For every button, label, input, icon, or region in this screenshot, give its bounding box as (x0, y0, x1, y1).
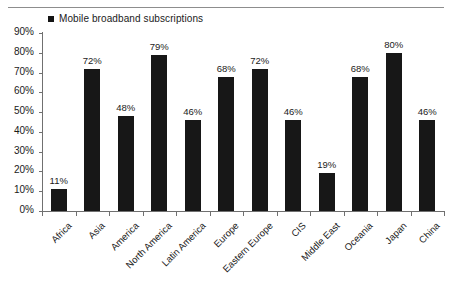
y-axis-tick-mark (39, 112, 42, 113)
x-axis-tick-mark (42, 211, 43, 216)
x-axis-tick-mark (210, 211, 211, 216)
y-axis-tick-label: 70% (14, 66, 34, 77)
bar (151, 55, 167, 211)
bar (51, 189, 67, 211)
y-axis-tick-mark (39, 171, 42, 172)
y-axis-tick-mark (39, 73, 42, 74)
y-axis-tick-label: 10% (14, 184, 34, 195)
bar (118, 116, 134, 211)
bar-value-label: 46% (407, 106, 447, 117)
y-axis-tick-label: 30% (14, 145, 34, 156)
x-axis-tick-mark (310, 211, 311, 216)
y-axis-tick-label: 80% (14, 46, 34, 57)
x-axis-tick-mark (243, 211, 244, 216)
y-axis-tick-mark (39, 152, 42, 153)
bar-value-label: 19% (307, 159, 347, 170)
y-axis-tick-mark (39, 132, 42, 133)
bar-value-label: 46% (173, 106, 213, 117)
y-axis-tick-label: 50% (14, 105, 34, 116)
bar-value-label: 68% (340, 63, 380, 74)
bar-value-label: 79% (139, 41, 179, 52)
bar (252, 69, 268, 211)
x-axis-tick-mark (411, 211, 412, 216)
bar (185, 120, 201, 211)
x-axis-tick-mark (344, 211, 345, 216)
y-axis-tick-mark (39, 92, 42, 93)
bar-chart: Mobile broadband subscriptions 0%10%20%3… (0, 0, 451, 297)
x-axis-tick-mark (143, 211, 144, 216)
legend-label: Mobile broadband subscriptions (59, 13, 203, 24)
bar (352, 77, 368, 211)
bar (84, 69, 100, 211)
top-rule-divider (8, 7, 444, 8)
bar-value-label: 80% (374, 39, 414, 50)
x-axis-tick-mark (109, 211, 110, 216)
y-axis-tick-label: 20% (14, 164, 34, 175)
bar-value-label: 72% (240, 55, 280, 66)
y-axis-tick-mark (39, 33, 42, 34)
x-axis-tick-mark (444, 211, 445, 216)
bar (319, 173, 335, 211)
bar-value-label: 72% (72, 55, 112, 66)
bar (285, 120, 301, 211)
x-axis-tick-mark (377, 211, 378, 216)
y-axis-tick-label: 60% (14, 85, 34, 96)
bar-value-label: 48% (106, 102, 146, 113)
bar (218, 77, 234, 211)
bar-value-label: 46% (273, 106, 313, 117)
y-axis-tick-label: 40% (14, 125, 34, 136)
legend-square-marker-icon (48, 16, 54, 22)
y-axis-tick-mark (39, 53, 42, 54)
y-axis-tick-mark (39, 191, 42, 192)
y-axis-tick-label: 0% (20, 204, 34, 215)
bar (419, 120, 435, 211)
bar (386, 53, 402, 211)
x-axis-tick-mark (277, 211, 278, 216)
chart-legend: Mobile broadband subscriptions (48, 13, 203, 24)
x-axis-tick-mark (176, 211, 177, 216)
y-axis-tick-label: 90% (14, 26, 34, 37)
bar-value-label: 11% (39, 175, 79, 186)
x-axis-tick-mark (76, 211, 77, 216)
